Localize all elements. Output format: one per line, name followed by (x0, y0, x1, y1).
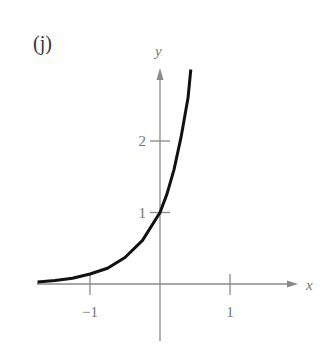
y-axis-arrow-icon (157, 68, 164, 80)
y-axis-label: y (153, 43, 162, 59)
function-curve (38, 70, 191, 282)
x-axis-label: x (305, 277, 313, 293)
y-axis: y (153, 43, 164, 341)
function-graph: (j) x y −1112 (0, 0, 333, 358)
axis-ticks: −1112 (82, 133, 234, 320)
y-tick-label: 1 (139, 205, 147, 221)
y-tick-label: 2 (139, 133, 147, 149)
panel-label: (j) (33, 32, 52, 55)
x-tick-label: 1 (226, 304, 234, 320)
x-tick-label: −1 (82, 304, 98, 320)
x-axis: x (37, 277, 313, 293)
x-axis-arrow-icon (287, 281, 298, 288)
